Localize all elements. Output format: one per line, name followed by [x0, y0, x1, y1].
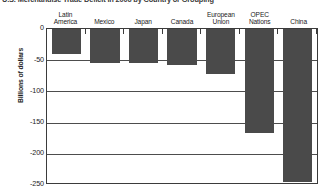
x-axis-tick [316, 29, 317, 34]
bar-slot [47, 29, 86, 183]
bar-slot [86, 29, 125, 183]
x-axis-label: Latin America [46, 11, 85, 27]
bar [129, 29, 158, 63]
bar [283, 29, 312, 182]
x-axis-label: Canada [163, 18, 202, 27]
y-axis-tick-label: -50 [14, 56, 44, 63]
x-axis-label: China [279, 18, 318, 27]
bar-slot [201, 29, 240, 183]
x-axis-label: Japan [124, 18, 163, 27]
plot-area [46, 28, 318, 184]
y-axis-tick-label: -250 [14, 180, 44, 187]
bar-slot [124, 29, 163, 183]
y-axis-tick-label: 0 [14, 24, 44, 31]
y-axis-tick-labels: 0-50-100-150-200-250 [14, 0, 44, 191]
y-axis-tick-label: -100 [14, 87, 44, 94]
x-axis-label: OPEC Nations [240, 11, 279, 27]
bar-slot [163, 29, 202, 183]
x-axis-label: Mexico [85, 18, 124, 27]
x-axis-category-labels: Latin AmericaMexicoJapanCanadaEuropean U… [46, 6, 318, 27]
bar-series [47, 29, 317, 183]
bar-slot [278, 29, 317, 183]
y-axis-tick-label: -200 [14, 149, 44, 156]
bar [245, 29, 274, 133]
bar [90, 29, 119, 63]
x-axis-label: European Union [201, 11, 240, 27]
bar [167, 29, 196, 65]
bar-slot [240, 29, 279, 183]
bar-chart-figure: U.S. Merchandise Trade Deficit in 2006 b… [0, 0, 324, 191]
y-axis-tick-label: -150 [14, 118, 44, 125]
chart-title-clip: U.S. Merchandise Trade Deficit in 2006 b… [0, 0, 324, 4]
bar [206, 29, 235, 74]
chart-title: U.S. Merchandise Trade Deficit in 2006 b… [2, 0, 324, 4]
bar [52, 29, 81, 54]
